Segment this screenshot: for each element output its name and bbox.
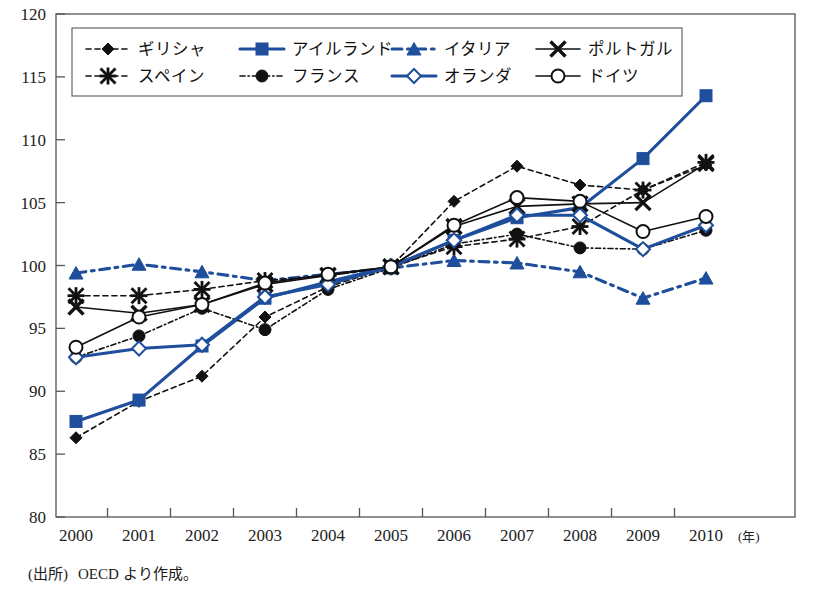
marker-shape (574, 195, 587, 208)
marker-circle-open (700, 210, 713, 223)
legend-label: アイルランド (292, 40, 393, 59)
x-tick-label: 2006 (437, 526, 471, 545)
marker-circle-open (196, 298, 209, 311)
x-axis-unit-label: (年) (738, 529, 760, 544)
legend-label: ポルトガル (588, 40, 673, 59)
marker-shape (70, 341, 83, 354)
marker-shape (637, 153, 649, 165)
marker-shape (133, 394, 145, 406)
marker-circle-filled (256, 70, 268, 82)
x-tick-label: 2001 (122, 526, 156, 545)
marker-square-filled (133, 394, 145, 406)
marker-shape (70, 415, 82, 427)
marker-circle-open (552, 70, 565, 83)
marker-shape (511, 228, 523, 240)
marker-shape (700, 210, 713, 223)
marker-asterisk (194, 281, 211, 298)
x-tick-label: 2007 (500, 526, 535, 545)
marker-circle-filled (259, 324, 271, 336)
x-tick-label: 2005 (374, 526, 408, 545)
marker-square-filled (256, 43, 268, 55)
marker-circle-open (385, 260, 398, 273)
marker-asterisk (68, 287, 85, 304)
y-tick-label: 95 (29, 319, 46, 338)
marker-asterisk (131, 287, 148, 304)
x-tick-label: 2002 (185, 526, 219, 545)
legend: ギリシャアイルランドイタリアポルトガルスペインフランスオランダドイツ (72, 28, 682, 96)
y-tick-label: 115 (21, 68, 46, 87)
marker-circle-open (259, 277, 272, 290)
marker-square-filled (70, 415, 82, 427)
marker-asterisk (698, 154, 715, 171)
marker-square-filled (637, 153, 649, 165)
marker-circle-filled (574, 242, 586, 254)
marker-shape (256, 70, 268, 82)
marker-circle-open (511, 191, 524, 204)
x-tick-label: 2003 (248, 526, 282, 545)
x-tick-label: 2010 (689, 526, 723, 545)
marker-asterisk (635, 182, 652, 199)
marker-circle-open (448, 219, 461, 232)
marker-shape (552, 70, 565, 83)
marker-shape (133, 311, 146, 324)
marker-shape (256, 43, 268, 55)
legend-label: ギリシャ (138, 40, 206, 59)
legend-label: オランダ (444, 67, 512, 86)
marker-shape (574, 242, 586, 254)
line-chart: 8085909510010511011512020002001200220032… (0, 0, 813, 603)
source-note: (出所)OECD より作成。 (28, 562, 198, 583)
legend-label: ドイツ (588, 67, 639, 86)
marker-shape (196, 298, 209, 311)
chart-figure: 8085909510010511011512020002001200220032… (0, 0, 813, 603)
x-tick-label: 2009 (626, 526, 660, 545)
x-tick-label: 2000 (59, 526, 93, 545)
marker-shape (637, 225, 650, 238)
x-tick-label: 2004 (311, 526, 346, 545)
marker-square-filled (700, 90, 712, 102)
y-tick-label: 100 (21, 257, 47, 276)
marker-shape (511, 191, 524, 204)
y-tick-label: 85 (29, 445, 46, 464)
marker-asterisk (100, 68, 117, 85)
legend-label: フランス (292, 67, 360, 86)
marker-shape (700, 90, 712, 102)
marker-shape (385, 260, 398, 273)
marker-circle-open (322, 268, 335, 281)
marker-shape (259, 277, 272, 290)
source-text: OECD より作成。 (78, 566, 198, 582)
y-tick-label: 110 (21, 131, 46, 150)
legend-label: イタリア (444, 40, 511, 59)
marker-circle-open (133, 311, 146, 324)
marker-shape (322, 268, 335, 281)
marker-shape (448, 219, 461, 232)
marker-circle-open (637, 225, 650, 238)
y-tick-label: 105 (21, 194, 47, 213)
source-label: (出所) (28, 566, 68, 582)
y-tick-label: 120 (21, 5, 47, 24)
marker-circle-open (70, 341, 83, 354)
marker-circle-filled (511, 228, 523, 240)
y-tick-label: 80 (29, 508, 46, 527)
x-tick-label: 2008 (563, 526, 597, 545)
y-tick-label: 90 (29, 382, 46, 401)
legend-label: スペイン (138, 67, 205, 86)
marker-shape (259, 324, 271, 336)
marker-circle-open (574, 195, 587, 208)
